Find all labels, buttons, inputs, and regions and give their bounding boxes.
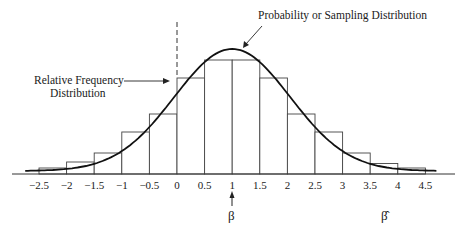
curve-annotation-label: Probability or Sampling Distribution	[258, 9, 427, 22]
x-tick-label: −2	[61, 179, 73, 191]
histogram-bar	[315, 132, 343, 174]
histogram-annotation-label-line1: Relative Frequency	[34, 74, 124, 87]
histogram-bar	[343, 153, 371, 174]
x-tick-label: 3	[340, 179, 346, 191]
x-tick-labels: −2.5−2−1.5−1−0.500.511.522.533.544.5	[29, 179, 433, 191]
x-tick-label: 3.5	[363, 179, 377, 191]
x-tick-label: −0.5	[139, 179, 159, 191]
histogram-bar	[260, 78, 288, 174]
histogram-annotation-arrowhead-icon	[163, 78, 170, 84]
beta-arrowhead-icon	[230, 191, 235, 198]
x-tick-label: −1	[116, 179, 128, 191]
x-tick-label: 0.5	[198, 179, 212, 191]
histogram-bar	[232, 60, 260, 174]
x-tick-label: −1.5	[84, 179, 104, 191]
x-tick-label: 2.5	[308, 179, 322, 191]
x-tick-label: 4.5	[419, 179, 433, 191]
x-tick-label: −2.5	[29, 179, 49, 191]
beta-hat-axis-label: β̂	[381, 208, 391, 223]
sampling-distribution-chart: −2.5−2−1.5−1−0.500.511.522.533.544.5 Pro…	[0, 0, 466, 235]
x-tick-label: 2	[285, 179, 291, 191]
histogram-bar	[94, 153, 122, 174]
histogram-bar	[205, 60, 233, 174]
x-tick-label: 0	[174, 179, 180, 191]
curve-annotation-arrow-line	[246, 26, 262, 44]
histogram-bar	[122, 132, 150, 174]
histogram-annotation-label-line2: Distribution	[50, 87, 106, 99]
x-tick-label: 4	[395, 179, 401, 191]
histogram-bar	[177, 78, 205, 174]
beta-true-label: β	[228, 208, 235, 223]
x-tick-label: 1.5	[253, 179, 267, 191]
x-tick-label: 1	[229, 179, 235, 191]
